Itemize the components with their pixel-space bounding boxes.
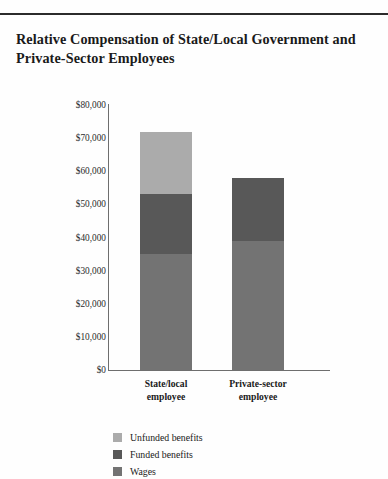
y-axis-tick-label: $10,000 [54, 332, 106, 342]
bar-segment [140, 132, 192, 195]
legend-item: Funded benefits [113, 446, 343, 463]
y-axis-tick: $30,000 [50, 266, 106, 276]
y-axis-tick-label: $0 [54, 365, 106, 375]
y-axis-tick: $50,000 [50, 199, 106, 209]
y-axis-tick: $60,000 [50, 166, 106, 176]
y-axis-tick-label: $80,000 [54, 100, 106, 110]
y-axis-tick: $70,000 [50, 133, 106, 143]
legend-swatch-icon [113, 467, 122, 476]
bar-2 [232, 105, 284, 370]
y-axis-tick: $40,000 [50, 233, 106, 243]
chart-legend: Unfunded benefitsFunded benefitsWages [113, 429, 343, 479]
y-axis-tick-label: $20,000 [54, 299, 106, 309]
y-axis-tick-label: $40,000 [54, 233, 106, 243]
y-axis-line [108, 104, 109, 371]
x-axis-tick-label-line: employee [203, 391, 313, 404]
x-axis-tick-label-line: Private-sector [203, 378, 313, 391]
legend-swatch-icon [113, 433, 122, 442]
legend-item-label: Funded benefits [130, 449, 193, 461]
y-axis-tick: $20,000 [50, 299, 106, 309]
legend-item: Unfunded benefits [113, 429, 343, 446]
legend-swatch-icon [113, 450, 122, 459]
x-axis-tick-label: Private-sectoremployee [203, 378, 313, 403]
y-axis-tick-label: $70,000 [54, 133, 106, 143]
bar-segment [140, 194, 192, 254]
figure-page: Relative Compensation of State/Local Gov… [0, 0, 388, 479]
bar-1 [140, 105, 192, 370]
legend-item-label: Wages [130, 466, 156, 478]
y-axis-tick: $10,000 [50, 332, 106, 342]
y-axis-tick: $80,000 [50, 100, 106, 110]
legend-item-label: Unfunded benefits [130, 432, 203, 444]
bar-segment [232, 178, 284, 241]
stacked-bar-chart: $80,000$70,000$60,000$50,000$40,000$30,0… [0, 0, 388, 479]
y-axis-tick-label: $50,000 [54, 199, 106, 209]
y-axis-tick-label: $60,000 [54, 166, 106, 176]
bar-segment [140, 254, 192, 370]
y-axis-tick-label: $30,000 [54, 266, 106, 276]
legend-item: Wages [113, 463, 343, 479]
y-axis-tick: $0 [50, 365, 106, 375]
bar-segment [232, 241, 284, 370]
x-axis-line [108, 370, 330, 371]
